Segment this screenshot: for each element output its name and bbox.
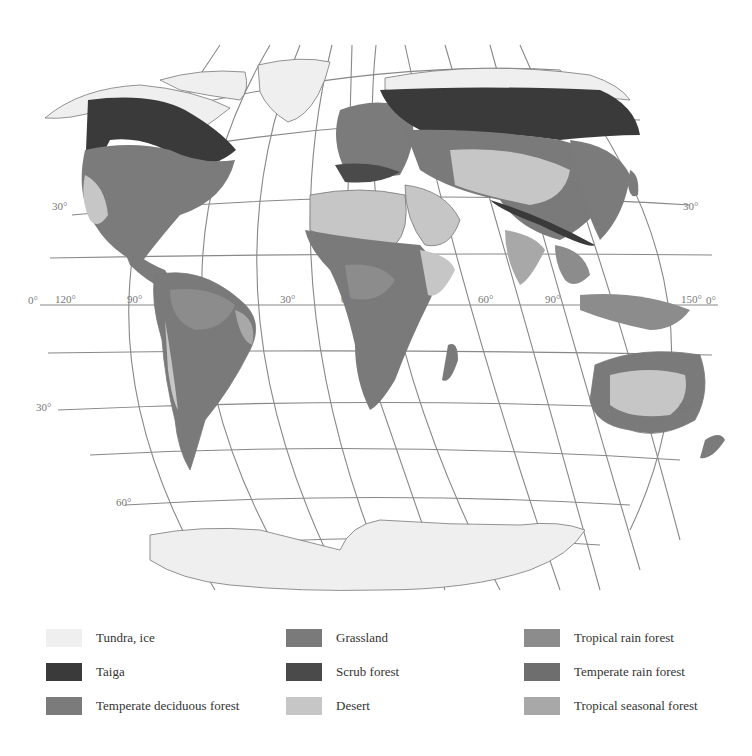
- legend-label: Temperate deciduous forest: [96, 698, 239, 714]
- world-biome-map: 30° 0° 30° 60° 30° 0° 30° 120° 90° 30° 0…: [0, 0, 752, 600]
- tundra-swatch: [46, 629, 82, 647]
- tropical-seasonal-forest-swatch: [524, 697, 560, 715]
- antarctica: [150, 520, 585, 590]
- lon-label-0: 0°: [341, 293, 351, 305]
- legend-label: Grassland: [336, 630, 388, 646]
- legend-item-desert: Desert: [286, 696, 370, 716]
- legend-item-tropical-seasonal-forest: Tropical seasonal forest: [524, 696, 698, 716]
- legend-label: Taiga: [96, 664, 125, 680]
- india: [505, 230, 545, 285]
- desert-swatch: [286, 697, 322, 715]
- lon-label-90e: 90°: [545, 293, 560, 305]
- lat-label-0-east: 0°: [706, 294, 716, 306]
- legend-label: Tropical seasonal forest: [574, 698, 698, 714]
- lat-label-30s-west: 30°: [36, 401, 51, 413]
- lon-label-60e: 60°: [478, 293, 493, 305]
- taiga-swatch: [46, 663, 82, 681]
- lat-label-30n-west: 30°: [52, 200, 67, 212]
- legend-item-scrub-forest: Scrub forest: [286, 662, 399, 682]
- lat-label-30s-east: 30°: [679, 401, 694, 413]
- lat-label-0-west: 0°: [28, 294, 38, 306]
- legend-item-tundra: Tundra, ice: [46, 628, 155, 648]
- legend-label: Desert: [336, 698, 370, 714]
- grassland-swatch: [286, 629, 322, 647]
- southeast-asia: [555, 245, 590, 284]
- japan: [628, 170, 638, 196]
- legend-item-temperate-rain-forest: Temperate rain forest: [524, 662, 685, 682]
- map-legend: Tundra, ice Taiga Temperate deciduous fo…: [0, 620, 752, 750]
- scrub-forest-swatch: [286, 663, 322, 681]
- legend-label: Scrub forest: [336, 664, 399, 680]
- indonesia: [580, 294, 690, 330]
- legend-item-grassland: Grassland: [286, 628, 388, 648]
- temperate-deciduous-swatch: [46, 697, 82, 715]
- arabia-desert: [405, 185, 460, 246]
- tropical-rain-forest-swatch: [524, 629, 560, 647]
- legend-label: Temperate rain forest: [574, 664, 685, 680]
- lon-label-150e: 150°: [681, 293, 702, 305]
- legend-item-tropical-rain-forest: Tropical rain forest: [524, 628, 674, 648]
- lon-label-30w: 30°: [280, 293, 295, 305]
- greenland: [258, 59, 330, 122]
- africa-grassland: [305, 230, 436, 410]
- lat-label-30n-east: 30°: [683, 200, 698, 212]
- legend-label: Tropical rain forest: [574, 630, 674, 646]
- australia-desert: [610, 370, 686, 416]
- new-zealand: [700, 435, 725, 458]
- lon-label-120w: 120°: [55, 293, 76, 305]
- legend-label: Tundra, ice: [96, 630, 155, 646]
- legend-item-taiga: Taiga: [46, 662, 125, 682]
- lat-label-60s: 60°: [116, 496, 131, 508]
- legend-item-temperate-deciduous: Temperate deciduous forest: [46, 696, 239, 716]
- madagascar: [442, 344, 458, 381]
- lon-label-90w: 90°: [127, 293, 142, 305]
- temperate-rain-forest-swatch: [524, 663, 560, 681]
